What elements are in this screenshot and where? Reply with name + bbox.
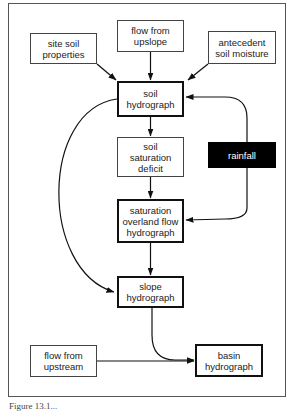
node-basin-hydrograph: basin hydrograph xyxy=(195,344,263,377)
node-slope-hydrograph: slope hydrograph xyxy=(117,276,184,308)
node-label: site soil properties xyxy=(42,38,84,60)
arrow-slope-to-basin xyxy=(152,308,194,360)
figure-caption: Figure 13.1... xyxy=(9,401,57,411)
arrow-soil-hydrograph-to-slope xyxy=(59,99,117,292)
node-label: soil hydrograph xyxy=(126,88,174,110)
arrow-antecedent-to-soil-hydrograph xyxy=(188,64,208,80)
node-soil-saturation-deficit: soil saturation deficit xyxy=(117,137,184,177)
node-rainfall: rainfall xyxy=(208,142,276,168)
arrow-site-soil-to-soil-hydrograph xyxy=(97,64,116,80)
node-flow-from-upstream: flow from upstream xyxy=(30,345,97,377)
node-site-soil-properties: site soil properties xyxy=(30,33,97,64)
node-antecedent-soil-moisture: antecedent soil moisture xyxy=(208,31,276,64)
node-label: rainfall xyxy=(228,150,256,161)
node-flow-from-upslope: flow from upslope xyxy=(117,20,184,52)
arrow-rainfall-to-soil-hydrograph xyxy=(186,97,247,142)
node-label: flow from upstream xyxy=(44,350,84,372)
node-saturation-overland-flow-hydrograph: saturation overland flow hydrograph xyxy=(117,199,184,243)
arrow-rainfall-to-overland xyxy=(186,168,247,220)
node-soil-hydrograph: soil hydrograph xyxy=(117,81,184,117)
node-label: soil saturation deficit xyxy=(130,141,172,174)
node-label: slope hydrograph xyxy=(126,281,174,303)
node-label: basin hydrograph xyxy=(205,350,253,372)
node-label: antecedent soil moisture xyxy=(215,37,268,59)
node-label: flow from upslope xyxy=(131,25,170,47)
node-label: saturation overland flow hydrograph xyxy=(123,205,179,238)
